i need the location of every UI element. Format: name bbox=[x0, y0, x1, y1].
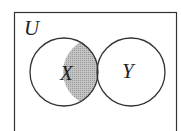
universe-label: U bbox=[24, 16, 41, 40]
set-y-label: Y bbox=[122, 59, 136, 83]
set-x-label: X bbox=[59, 61, 74, 85]
venn-diagram: U X Y bbox=[0, 0, 181, 131]
